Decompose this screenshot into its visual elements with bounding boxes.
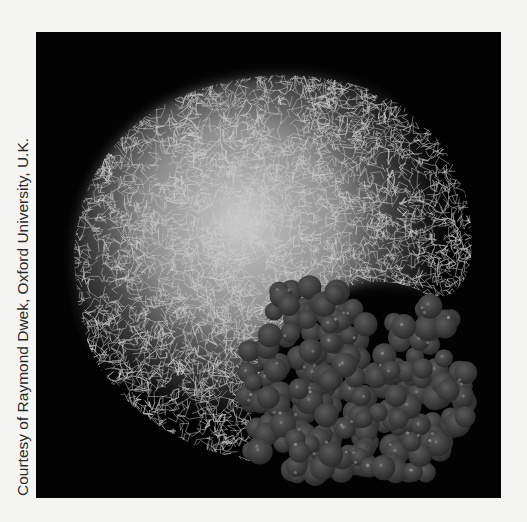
- image-credit: Courtesy of Raymond Dwek, Oxford Univers…: [11, 0, 35, 498]
- protein-surface: [236, 275, 477, 486]
- molecular-rendering: [36, 32, 501, 498]
- molecular-image-panel: [36, 32, 501, 498]
